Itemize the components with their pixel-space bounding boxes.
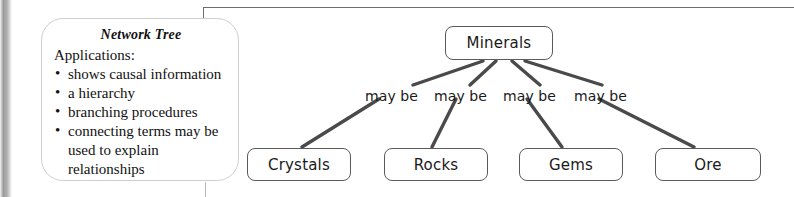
bullet-icon: •	[55, 102, 60, 121]
list-item: • connecting terms may be used to explai…	[54, 122, 228, 179]
list-item: • branching procedures	[54, 103, 228, 122]
network-tree-info-card: Network Tree Applications: • shows causa…	[41, 18, 239, 181]
bullet-icon: •	[55, 64, 60, 83]
node-label: Rocks	[414, 156, 459, 174]
connector-line	[525, 61, 602, 85]
node-rocks[interactable]: Rocks	[384, 148, 488, 181]
connector-line	[527, 99, 562, 147]
edge-label-may-be: may be	[434, 88, 487, 104]
list-item: • a hierarchy	[54, 84, 228, 103]
connector-line	[512, 61, 540, 85]
edge-label-may-be: may be	[503, 88, 556, 104]
list-item-label: connecting terms may be used to explain …	[68, 123, 218, 177]
bullet-icon: •	[55, 83, 60, 102]
node-crystals[interactable]: Crystals	[247, 148, 351, 181]
page-canvas: Network Tree Applications: • shows causa…	[0, 0, 794, 197]
list-item: • shows causal information	[54, 65, 228, 84]
card-application-list: • shows causal information • a hierarchy…	[54, 65, 228, 179]
node-ore[interactable]: Ore	[655, 148, 761, 181]
connector-line	[470, 61, 496, 85]
node-label: Crystals	[268, 156, 330, 174]
connector-line	[302, 99, 379, 147]
page-edge-gutter	[0, 0, 12, 197]
node-label: Gems	[549, 156, 593, 174]
frame-top-rule	[203, 7, 794, 8]
list-item-label: branching procedures	[68, 104, 198, 120]
card-subtitle: Applications:	[54, 46, 228, 65]
list-item-label: a hierarchy	[68, 85, 135, 101]
bullet-icon: •	[55, 121, 60, 140]
edge-label-may-be: may be	[574, 88, 627, 104]
list-item-label: shows causal information	[68, 66, 221, 82]
connector-line	[599, 99, 694, 147]
node-label: Minerals	[467, 34, 532, 52]
connector-line	[413, 61, 483, 85]
frame-left-rule-bottom	[205, 182, 206, 197]
connector-line	[432, 99, 456, 147]
edge-label-may-be: may be	[365, 88, 418, 104]
card-title: Network Tree	[54, 26, 228, 44]
node-minerals[interactable]: Minerals	[445, 26, 553, 60]
node-gems[interactable]: Gems	[519, 148, 623, 181]
node-label: Ore	[694, 156, 721, 174]
